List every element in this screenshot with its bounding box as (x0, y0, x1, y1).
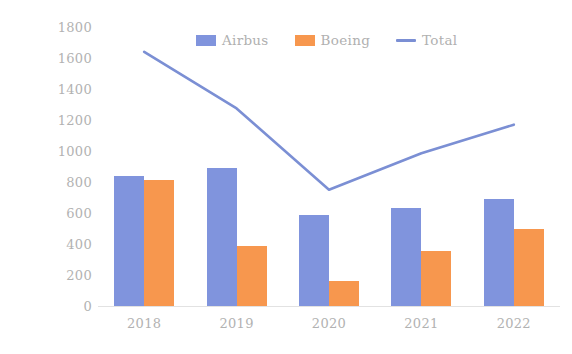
y-axis-tick-label: 400 (46, 238, 92, 251)
legend-item-airbus[interactable]: Airbus (196, 32, 269, 48)
total-line-path (144, 52, 514, 190)
legend-item-total[interactable]: Total (396, 32, 457, 48)
bar-boeing-2022 (514, 229, 544, 307)
bar-airbus-2022 (484, 199, 514, 306)
bar-airbus-2018 (114, 176, 144, 306)
legend-label-airbus: Airbus (222, 32, 269, 48)
y-axis-tick-label: 1400 (46, 83, 92, 96)
chart-legend: AirbusBoeingTotal (196, 30, 457, 50)
bar-airbus-2019 (207, 168, 237, 306)
y-axis-tick-label: 200 (46, 269, 92, 282)
x-axis-tick-label-2020: 2020 (283, 316, 375, 331)
legend-label-total: Total (422, 32, 457, 48)
x-axis-tick-label-2018: 2018 (98, 316, 190, 331)
legend-swatch-total-icon (396, 39, 416, 42)
aircraft-deliveries-chart: Number of aircraft delivered 18001600140… (0, 0, 572, 354)
legend-swatch-boeing-icon (295, 35, 315, 46)
bar-boeing-2020 (329, 281, 359, 306)
bar-airbus-2020 (299, 215, 329, 306)
y-axis-tick-label: 600 (46, 207, 92, 220)
y-axis-tick-label: 1200 (46, 114, 92, 127)
legend-swatch-airbus-icon (196, 35, 216, 46)
y-axis-tick-label: 0 (46, 300, 92, 313)
y-axis-tick-label: 800 (46, 176, 92, 189)
x-axis-tick-label-2021: 2021 (375, 316, 467, 331)
x-axis-tick-label-2019: 2019 (191, 316, 283, 331)
plot-area (98, 27, 560, 306)
x-axis-tick-label-2022: 2022 (468, 316, 560, 331)
legend-item-boeing[interactable]: Boeing (295, 32, 371, 48)
y-axis-tick-label: 1600 (46, 52, 92, 65)
y-axis-tick-label: 1800 (46, 21, 92, 34)
bar-boeing-2021 (421, 251, 451, 306)
y-axis-tick-labels: 180016001400120010008006004002000 (44, 0, 92, 354)
bar-airbus-2021 (391, 208, 421, 306)
x-axis-line (98, 306, 560, 307)
x-axis-tick-labels: 20182019202020212022 (98, 316, 560, 342)
bar-boeing-2018 (144, 180, 174, 306)
legend-label-boeing: Boeing (321, 32, 371, 48)
y-axis-tick-label: 1000 (46, 145, 92, 158)
bar-boeing-2019 (237, 246, 267, 306)
